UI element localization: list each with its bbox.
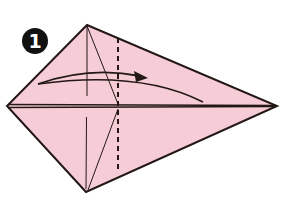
vertical-crease-lower xyxy=(86,117,87,189)
paper-kite-shape xyxy=(7,25,277,192)
step-number: 1 xyxy=(28,30,41,52)
step-number-badge: 1 xyxy=(22,28,48,54)
center-crease-bottom xyxy=(8,107,276,108)
origami-diagram: 1 xyxy=(0,0,292,203)
center-crease-top xyxy=(8,105,276,106)
